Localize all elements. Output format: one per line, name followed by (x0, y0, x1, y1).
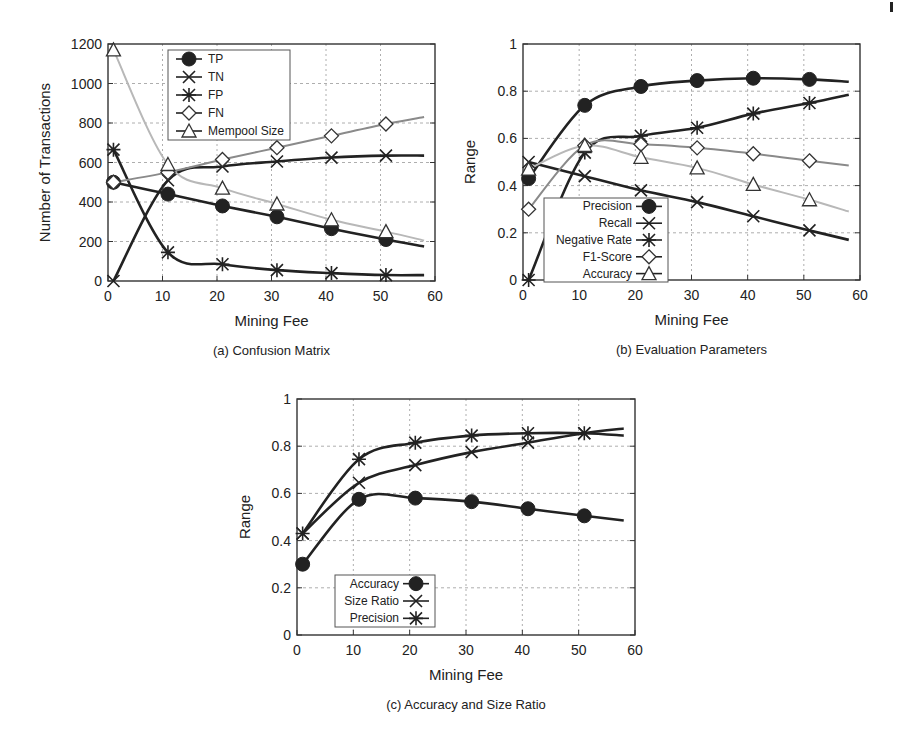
accuracy-marker (352, 492, 366, 506)
negative-rate-marker (802, 96, 816, 110)
fp-marker (106, 143, 120, 157)
y-tick-label: 0.8 (272, 438, 292, 454)
precision-marker (802, 72, 816, 86)
tp-marker (215, 199, 229, 213)
precision-marker (634, 79, 648, 93)
y-tick-label: 0.2 (498, 225, 518, 241)
y-tick-label: 0 (283, 627, 291, 643)
chart-caption: (a) Confusion Matrix (213, 343, 331, 358)
x-tick-label: 60 (427, 288, 443, 304)
x-tick-label: 50 (571, 642, 587, 658)
legend-tp-marker (182, 52, 196, 66)
y-tick-label: 600 (79, 155, 103, 171)
fp-marker (215, 257, 229, 271)
x-tick-label: 50 (373, 288, 389, 304)
fn-marker (324, 129, 338, 143)
y-axis-label: Range (236, 495, 253, 539)
legend-label: Mempool Size (208, 124, 284, 138)
y-tick-label: 200 (79, 234, 103, 250)
legend-precision-marker (642, 199, 656, 213)
legend-label: TN (208, 70, 224, 84)
x-tick-label: 20 (402, 642, 418, 658)
chart-caption: (c) Accuracy and Size Ratio (386, 697, 546, 712)
y-tick-label: 1 (509, 36, 517, 52)
mempool-size-marker (161, 157, 175, 170)
precision-marker (577, 426, 591, 440)
y-tick-label: 0.4 (498, 178, 518, 194)
chart-caption: (b) Evaluation Parameters (616, 342, 768, 357)
x-tick-label: 60 (627, 642, 643, 658)
legend: AccuracySize RatioPrecision (335, 575, 435, 627)
legend-negative-rate-marker (642, 233, 656, 247)
series-line-precision (303, 433, 624, 534)
x-tick-label: 10 (155, 288, 171, 304)
precision-marker (352, 452, 366, 466)
x-tick-label: 10 (571, 287, 587, 303)
y-tick-label: 0.6 (272, 485, 292, 501)
x-tick-label: 0 (104, 288, 112, 304)
x-tick-label: 30 (684, 287, 700, 303)
x-tick-label: 30 (264, 288, 280, 304)
x-tick-label: 50 (796, 287, 812, 303)
series-line-size-ratio (303, 429, 624, 534)
y-tick-label: 1 (283, 391, 291, 407)
fp-marker (161, 245, 175, 259)
accuracy-marker (577, 509, 591, 523)
precision-marker (296, 527, 310, 541)
x-tick-label: 0 (519, 287, 527, 303)
precision-marker (690, 74, 704, 88)
legend-label: Accuracy (583, 267, 632, 281)
x-tick-label: 20 (628, 287, 644, 303)
x-axis-label: Mining Fee (234, 312, 308, 329)
legend-accuracy-marker (409, 577, 423, 591)
accuracy-marker (521, 502, 535, 516)
legend-label: Accuracy (350, 577, 399, 591)
legend-label: Precision (583, 199, 632, 213)
legend-precision-marker (409, 611, 423, 625)
legend-fp-marker (182, 88, 196, 102)
legend-item-accuracy: Accuracy (583, 267, 662, 281)
precision-marker (746, 71, 760, 85)
legend-item-precision: Precision (583, 199, 662, 213)
size-ratio-marker (353, 477, 365, 489)
y-tick-label: 400 (79, 194, 103, 210)
negative-rate-marker (522, 273, 536, 287)
x-tick-label: 40 (515, 642, 531, 658)
x-axis-ticks: 0102030405060 (293, 630, 643, 658)
f1-score-marker (690, 141, 704, 155)
y-tick-label: 0 (509, 272, 517, 288)
x-tick-label: 0 (293, 642, 301, 658)
y-tick-label: 0 (94, 273, 102, 289)
chart-accuracy-size-ratio: 010203040506000.20.40.60.81Mining FeeRan… (236, 391, 643, 712)
x-tick-label: 40 (318, 288, 334, 304)
tp-marker (161, 187, 175, 201)
legend-label: Negative Rate (556, 233, 632, 247)
legend-label: Precision (350, 611, 399, 625)
legend-label: FP (208, 88, 223, 102)
chart-confusion-matrix: 0102030405060020040060080010001200Mining… (36, 36, 443, 358)
tp-marker (270, 210, 284, 224)
legend-label: TP (208, 52, 223, 66)
legend: TPTNFPFNMempool Size (168, 50, 290, 140)
y-tick-label: 1200 (71, 36, 102, 52)
x-tick-label: 10 (346, 642, 362, 658)
y-axis-label: Number of Transactions (36, 83, 53, 242)
y-tick-label: 800 (79, 115, 103, 131)
y-tick-label: 0.6 (498, 130, 518, 146)
chart-evaluation-parameters: 010203040506000.20.40.60.81Mining FeeRan… (461, 36, 868, 357)
x-axis-label: Mining Fee (429, 666, 503, 683)
fp-marker (324, 266, 338, 280)
y-tick-label: 1000 (71, 76, 102, 92)
y-tick-label: 0.2 (272, 580, 292, 596)
y-tick-label: 0.4 (272, 533, 292, 549)
y-tick-label: 0.8 (498, 83, 518, 99)
x-tick-label: 20 (209, 288, 225, 304)
figure-canvas: 0102030405060020040060080010001200Mining… (0, 0, 898, 741)
fp-marker (270, 263, 284, 277)
y-axis-label: Range (461, 140, 478, 184)
f1-score-marker (802, 154, 816, 168)
x-tick-label: 40 (740, 287, 756, 303)
series-group (296, 426, 624, 571)
legend-item-accuracy: Accuracy (350, 577, 429, 591)
x-tick-label: 60 (852, 287, 868, 303)
